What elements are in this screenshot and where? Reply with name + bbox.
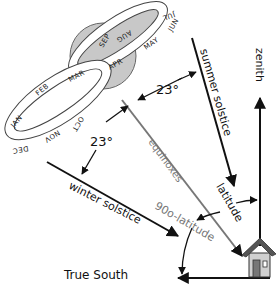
true-south-label: True South bbox=[63, 268, 128, 282]
winter-solstice-label: winter solstice bbox=[67, 179, 144, 227]
ninety-minus-latitude-label: 90o-latitude bbox=[153, 199, 218, 244]
angle-arrow-bottom bbox=[106, 106, 128, 122]
house-icon bbox=[242, 238, 276, 277]
ninety-minus-latitude-arc-bottom bbox=[182, 228, 192, 274]
equinoxes-label: equinoxes bbox=[146, 137, 185, 185]
angle-label-top: 23° bbox=[156, 82, 179, 97]
latitude-label: latitude bbox=[213, 181, 245, 224]
month-dec: DEC bbox=[12, 144, 29, 155]
analemma-band bbox=[0, 0, 177, 154]
angle-label-bottom: 23° bbox=[90, 134, 113, 149]
zenith-label: zenith bbox=[253, 48, 266, 82]
angle-arrow-bottom-2 bbox=[82, 150, 96, 174]
angle-arrow-top-2 bbox=[178, 72, 196, 80]
latitude-arc-arrow bbox=[236, 200, 257, 203]
sun-angle-diagram: JAN FEB MAR APR MAY JUN JUL AUG SEP OCT … bbox=[0, 0, 277, 286]
